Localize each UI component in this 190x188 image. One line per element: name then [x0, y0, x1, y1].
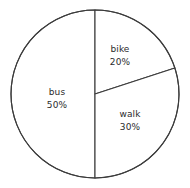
pie-label-walk-value: 30%: [106, 121, 154, 134]
pie-label-bus-name: bus: [33, 86, 81, 99]
pie-label-bike-value: 20%: [96, 56, 144, 69]
pie-label-walk-name: walk: [106, 108, 154, 121]
pie-chart-graphic: [0, 0, 190, 188]
pie-label-walk: walk 30%: [106, 108, 154, 134]
pie-chart: bike 20% bus 50% walk 30%: [0, 0, 190, 188]
pie-label-bike-name: bike: [96, 43, 144, 56]
pie-label-bus: bus 50%: [33, 86, 81, 112]
pie-label-bike: bike 20%: [96, 43, 144, 69]
pie-label-bus-value: 50%: [33, 99, 81, 112]
